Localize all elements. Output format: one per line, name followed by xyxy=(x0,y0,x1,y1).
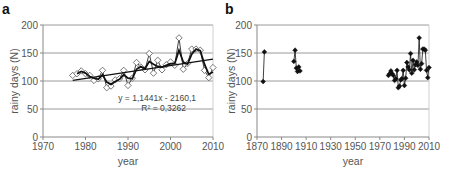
y-axis-title: rainy days (N) xyxy=(225,48,237,113)
x-tick-label: 1890 xyxy=(270,141,293,152)
data-series xyxy=(261,35,432,90)
data-point-filled-diamond xyxy=(262,49,267,54)
x-tick-label: 1950 xyxy=(344,141,367,152)
data-point-filled-diamond xyxy=(402,83,407,88)
x-tick-label: 1990 xyxy=(117,141,140,152)
chart-a-svg: a 050100150200 19701980199020002010 y = … xyxy=(0,0,225,175)
data-point-filled-diamond xyxy=(417,35,422,40)
x-tick-labels: 18701890191019301950197019902010 xyxy=(246,141,441,152)
data-point-open-diamond xyxy=(210,64,216,70)
chart-panel-b: b 050100150200 1870189019101930195019701… xyxy=(225,0,449,175)
gridlines xyxy=(257,25,429,109)
y-tick-label: 200 xyxy=(21,20,38,31)
data-point-open-diamond xyxy=(150,70,156,76)
data-point-open-diamond xyxy=(125,82,131,88)
x-axis-title: year xyxy=(343,155,364,167)
data-point-filled-diamond xyxy=(395,68,400,73)
x-tick-label: 1930 xyxy=(320,141,343,152)
x-tick-label: 2000 xyxy=(159,141,182,152)
x-tick-label: 1910 xyxy=(295,141,318,152)
x-tick-label: 2010 xyxy=(202,141,225,152)
axes xyxy=(40,25,213,140)
data-point-open-diamond xyxy=(146,50,152,56)
trend-equation: y = 1,1441x - 2160,1 xyxy=(118,93,196,103)
y-tick-label: 150 xyxy=(235,48,252,59)
data-point-open-diamond xyxy=(99,67,105,73)
x-tick-label: 2010 xyxy=(418,141,441,152)
data-point-open-diamond xyxy=(155,57,161,63)
y-tick-labels: 050100150200 xyxy=(235,20,252,143)
chart-panel-a: a 050100150200 19701980199020002010 y = … xyxy=(0,0,225,175)
y-tick-label: 50 xyxy=(241,104,253,115)
y-tick-label: 50 xyxy=(27,104,39,115)
x-axis-title: year xyxy=(118,155,139,167)
data-point-filled-diamond xyxy=(418,67,423,72)
r-squared-value: R² = 0,3262 xyxy=(141,103,186,113)
panel-label-a: a xyxy=(2,1,10,17)
data-point-open-diamond xyxy=(206,74,212,80)
data-point-filled-diamond xyxy=(404,60,409,65)
y-tick-label: 150 xyxy=(21,48,38,59)
data-point-filled-diamond xyxy=(408,51,413,56)
y-tick-labels: 050100150200 xyxy=(21,20,38,143)
chart-b-svg: b 050100150200 1870189019101930195019701… xyxy=(225,0,449,175)
data-point-filled-diamond xyxy=(401,68,406,73)
x-tick-label: 1870 xyxy=(246,141,269,152)
x-tick-label: 1970 xyxy=(369,141,392,152)
axes xyxy=(254,25,429,140)
series-line xyxy=(263,52,264,82)
data-point-open-diamond xyxy=(176,35,182,41)
y-tick-label: 100 xyxy=(235,76,252,87)
panel-label-b: b xyxy=(225,1,234,17)
data-series xyxy=(70,35,217,91)
series-line xyxy=(73,59,213,80)
x-tick-label: 1990 xyxy=(393,141,416,152)
y-tick-label: 100 xyxy=(21,76,38,87)
x-tick-label: 1980 xyxy=(74,141,97,152)
data-point-open-diamond xyxy=(180,66,186,72)
x-tick-labels: 19701980199020002010 xyxy=(32,141,225,152)
y-axis-title: rainy days (N) xyxy=(8,48,20,113)
data-point-filled-diamond xyxy=(293,48,298,53)
x-tick-label: 1970 xyxy=(32,141,55,152)
y-tick-label: 200 xyxy=(235,20,252,31)
data-point-filled-diamond xyxy=(261,79,266,84)
